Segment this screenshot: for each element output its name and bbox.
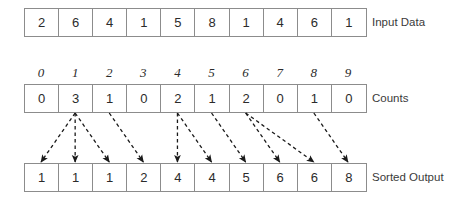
count-to-output-arrow [212, 113, 246, 162]
count-cell: 1 [195, 85, 229, 112]
count-cell: 0 [127, 85, 161, 112]
input-cell: 6 [59, 9, 93, 36]
output-cell: 8 [332, 164, 366, 191]
count-index-label: 3 [126, 64, 160, 82]
count-index-label: 7 [263, 64, 297, 82]
input-data-row: 2641581461 [24, 8, 367, 37]
counts-row: 0310212010 [24, 84, 367, 113]
count-index-label: 2 [92, 64, 126, 82]
output-cell: 4 [161, 164, 195, 191]
count-index-label: 0 [24, 64, 58, 82]
sorted-output-label: Sorted Output [372, 171, 444, 183]
input-cell: 4 [93, 9, 127, 36]
output-cell: 1 [59, 164, 93, 191]
output-cell: 1 [25, 164, 59, 191]
output-cell: 2 [127, 164, 161, 191]
count-index-label: 6 [229, 64, 263, 82]
count-cell: 1 [93, 85, 127, 112]
output-cell: 6 [298, 164, 332, 191]
count-to-output-arrow [177, 113, 211, 162]
sorted-output-row: 1112445668 [24, 163, 367, 192]
count-to-output-arrow [75, 113, 109, 162]
count-to-output-arrow [314, 113, 348, 162]
count-to-output-arrow [109, 113, 143, 162]
count-cell: 3 [59, 85, 93, 112]
count-cell: 2 [230, 85, 264, 112]
count-cell: 0 [264, 85, 298, 112]
output-cell: 1 [93, 164, 127, 191]
output-cell: 5 [230, 164, 264, 191]
input-cell: 8 [195, 9, 229, 36]
count-index-label: 8 [297, 64, 331, 82]
input-cell: 1 [127, 9, 161, 36]
counting-sort-diagram: 2641581461 0123456789 0310212010 1112445… [0, 0, 468, 201]
input-data-label: Input Data [372, 16, 425, 28]
count-index-label: 9 [331, 64, 365, 82]
count-cell: 1 [298, 85, 332, 112]
input-cell: 1 [230, 9, 264, 36]
output-cell: 6 [264, 164, 298, 191]
input-cell: 1 [332, 9, 366, 36]
count-index-label: 5 [194, 64, 228, 82]
output-cell: 4 [195, 164, 229, 191]
input-cell: 4 [264, 9, 298, 36]
input-cell: 5 [161, 9, 195, 36]
count-to-output-arrow [246, 113, 280, 162]
input-cell: 6 [298, 9, 332, 36]
count-to-output-arrow [41, 113, 75, 162]
count-index-label: 1 [58, 64, 92, 82]
count-cell: 2 [161, 85, 195, 112]
input-cell: 2 [25, 9, 59, 36]
counts-label: Counts [372, 92, 408, 104]
count-to-output-arrow [246, 113, 314, 162]
count-cell: 0 [332, 85, 366, 112]
count-index-label: 4 [160, 64, 194, 82]
count-cell: 0 [25, 85, 59, 112]
counts-index-labels: 0123456789 [24, 64, 365, 82]
